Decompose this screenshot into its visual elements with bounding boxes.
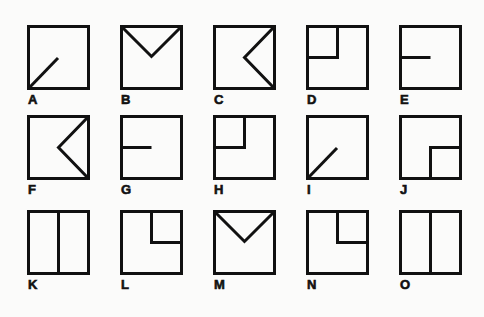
figure-label: L	[121, 278, 129, 291]
figure-a: A	[27, 25, 91, 107]
square-bottom-right-quadrant-icon	[399, 115, 463, 181]
figure-i: I	[306, 115, 370, 197]
square-envelope-icon	[213, 210, 277, 276]
square-diagonal-icon	[306, 115, 370, 181]
figure-label: O	[400, 278, 410, 291]
figure-grid: A B C D E F	[0, 0, 484, 317]
figure-g: G	[120, 115, 184, 197]
square-top-right-quadrant-icon	[120, 210, 184, 276]
figure-label: K	[28, 278, 37, 291]
figure-label: C	[214, 93, 223, 106]
square-vertical-split-icon	[399, 210, 463, 276]
square-top-right-quadrant-icon	[306, 210, 370, 276]
square-half-line-icon	[399, 25, 463, 91]
figure-label: E	[400, 93, 409, 106]
square-chevron-icon	[27, 115, 91, 181]
figure-d: D	[306, 25, 370, 107]
square-chevron-icon	[213, 25, 277, 91]
figure-k: K	[27, 210, 91, 292]
figure-label: I	[307, 183, 311, 196]
figure-label: N	[307, 278, 316, 291]
figure-f: F	[27, 115, 91, 197]
square-envelope-icon	[120, 25, 184, 91]
figure-label: F	[28, 183, 36, 196]
square-diagonal-icon	[27, 25, 91, 91]
figure-label: H	[214, 183, 223, 196]
figure-c: C	[213, 25, 277, 107]
figure-j: J	[399, 115, 463, 197]
figure-label: G	[121, 183, 131, 196]
figure-m: M	[213, 210, 277, 292]
figure-l: L	[120, 210, 184, 292]
figure-label: B	[121, 93, 130, 106]
figure-label: J	[400, 183, 407, 196]
figure-n: N	[306, 210, 370, 292]
figure-b: B	[120, 25, 184, 107]
figure-label: D	[307, 93, 316, 106]
square-half-line-icon	[120, 115, 184, 181]
figure-h: H	[213, 115, 277, 197]
square-top-left-quadrant-icon	[306, 25, 370, 91]
figure-label: M	[214, 278, 225, 291]
square-vertical-split-icon	[27, 210, 91, 276]
figure-e: E	[399, 25, 463, 107]
figure-o: O	[399, 210, 463, 292]
square-top-left-quadrant-icon	[213, 115, 277, 181]
figure-label: A	[28, 93, 37, 106]
